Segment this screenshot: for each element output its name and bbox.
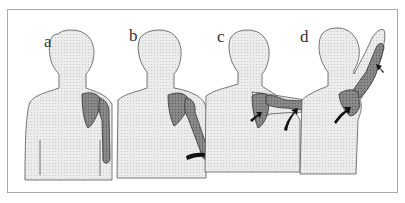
panel-label-c: c — [217, 27, 225, 46]
panel-d: d — [300, 27, 385, 174]
panel-label-a: a — [44, 32, 52, 51]
shoulder-abduction-diagram: a b c d — [0, 0, 405, 203]
panel-label-b: b — [129, 26, 138, 45]
panel-label-d: d — [300, 27, 309, 46]
panel-b: b — [117, 26, 214, 178]
panel-a: a — [25, 30, 112, 180]
